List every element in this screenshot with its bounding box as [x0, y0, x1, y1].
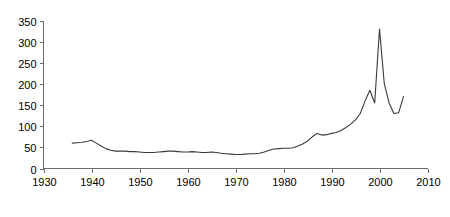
x-tick-label: 1950	[128, 176, 152, 188]
y-tick-label: 150	[18, 100, 36, 112]
y-tick-label: 350	[18, 16, 36, 28]
x-tick-label: 1960	[176, 176, 200, 188]
data-series-line	[72, 29, 403, 155]
x-tick-label: 1930	[32, 176, 56, 188]
x-tick-label: 1940	[80, 176, 104, 188]
y-tick-label: 100	[18, 121, 36, 133]
x-tick-label: 1970	[224, 176, 248, 188]
x-tick-label: 1980	[272, 176, 296, 188]
y-tick-label: 300	[18, 37, 36, 49]
x-tick-label: 2000	[368, 176, 392, 188]
x-tick-label: 2010	[416, 176, 440, 188]
chart-canvas: 0501001502002503003501930194019501960197…	[0, 0, 450, 217]
line-chart: 0501001502002503003501930194019501960197…	[0, 0, 450, 217]
y-tick-label: 0	[30, 164, 36, 176]
y-tick-label: 200	[18, 79, 36, 91]
y-tick-label: 50	[24, 142, 36, 154]
y-tick-label: 250	[18, 58, 36, 70]
x-tick-label: 1990	[320, 176, 344, 188]
